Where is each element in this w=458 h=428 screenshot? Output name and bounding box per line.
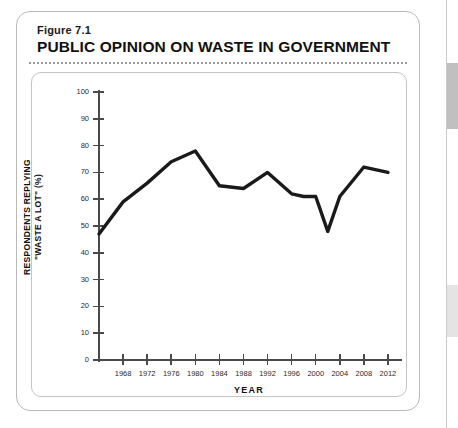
chart-series-layer [0,0,458,428]
line-series-waste-a-lot [99,151,388,234]
